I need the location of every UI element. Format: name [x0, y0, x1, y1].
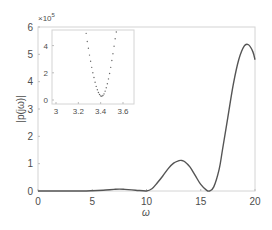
inset-data-point	[85, 33, 86, 34]
inset-data-point	[112, 53, 113, 54]
chart: 0123456 05101520 024 33.23.43.6 ×105 ω |…	[0, 0, 272, 230]
y-tick-label: 6	[27, 22, 33, 33]
inset-data-point	[107, 83, 108, 84]
inset-y-tick-label: 2	[44, 69, 49, 78]
inset-x-tick-label: 3.6	[117, 107, 129, 116]
inset-data-point	[90, 61, 91, 62]
inset-data-point	[97, 89, 98, 90]
inset-data-point	[87, 41, 88, 42]
inset-data-point	[96, 86, 97, 87]
inset-data-point	[92, 72, 93, 73]
y-tick-label: 5	[27, 49, 33, 60]
inset-x-tick-label: 3.2	[73, 107, 85, 116]
inset-x-tick-label: 3.4	[95, 107, 107, 116]
inset-data-point	[102, 95, 103, 96]
x-tick-label: 0	[35, 196, 41, 207]
inset-y-tick-label: 4	[44, 42, 49, 51]
x-tick-label: 15	[195, 196, 207, 207]
inset-data-point	[114, 38, 115, 39]
x-tick-label: 10	[141, 196, 153, 207]
inset-data-point	[93, 77, 94, 78]
inset-data-point	[91, 67, 92, 68]
inset-data-point	[109, 73, 110, 74]
inset-scale-label: ×105	[38, 12, 56, 23]
y-tick-label: 4	[27, 76, 33, 87]
inset-background	[52, 30, 134, 104]
inset-data-point	[89, 54, 90, 55]
y-tick-label: 1	[27, 158, 33, 169]
inset-data-point	[106, 87, 107, 88]
inset-x-tick-label: 3	[54, 107, 59, 116]
y-tick-label: 3	[27, 104, 33, 115]
inset-data-point	[111, 60, 112, 61]
inset-data-point	[113, 46, 114, 47]
inset-data-point	[88, 48, 89, 49]
inset-data-point	[99, 94, 100, 95]
x-axis-label: ω	[142, 207, 150, 218]
inset-data-point	[103, 93, 104, 94]
inset-data-point	[104, 90, 105, 91]
inset-y-tick-label: 0	[44, 96, 49, 105]
inset-data-point	[116, 31, 117, 32]
y-axis-label: |p(jω)|	[15, 95, 26, 122]
y-tick-label: 0	[27, 186, 33, 197]
x-tick-label: 5	[89, 196, 95, 207]
inset-data-point	[98, 92, 99, 93]
inset-data-point	[110, 67, 111, 68]
y-tick-label: 2	[27, 131, 33, 142]
inset-data-point	[94, 82, 95, 83]
x-tick-label: 20	[249, 196, 261, 207]
inset-data-point	[108, 78, 109, 79]
